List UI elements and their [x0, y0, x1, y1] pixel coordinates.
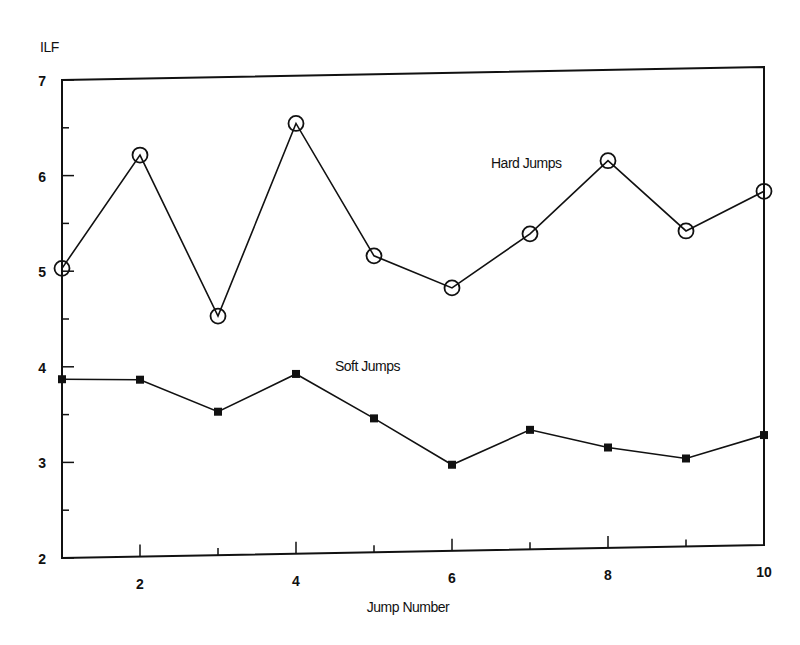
series-line	[62, 123, 764, 316]
filled-square-marker	[448, 461, 456, 469]
x-tick-label: 6	[448, 570, 456, 586]
x-tick-label: 2	[136, 576, 144, 592]
series-soft-jumps	[58, 370, 768, 469]
filled-square-marker	[526, 426, 534, 434]
data-series	[55, 116, 772, 469]
y-tick-label: 4	[38, 360, 46, 376]
y-tick-label: 6	[38, 169, 46, 185]
open-circle-marker	[523, 226, 538, 241]
filled-square-marker	[604, 444, 612, 452]
filled-square-marker	[760, 431, 768, 439]
x-tick-label: 4	[292, 573, 300, 589]
x-axis-title: Jump Number	[367, 599, 450, 615]
open-circle-marker	[55, 261, 70, 276]
open-circle-marker	[601, 153, 616, 168]
open-circle-marker	[367, 248, 382, 263]
filled-square-marker	[292, 370, 300, 378]
open-circle-marker	[133, 148, 148, 163]
y-tick-label: 2	[38, 551, 46, 567]
axis-ticks	[62, 80, 686, 558]
y-axis-title: ILF	[40, 39, 59, 55]
filled-square-marker	[136, 376, 144, 384]
open-circle-marker	[679, 223, 694, 238]
open-circle-marker	[445, 280, 460, 295]
x-tick-label: 10	[756, 564, 772, 580]
plot-border	[62, 67, 764, 558]
open-circle-marker	[757, 184, 772, 199]
series-annotation: Soft Jumps	[335, 358, 401, 374]
axis-labels: 234567246810ILFJump NumberHard JumpsSoft…	[38, 39, 772, 615]
series-hard-jumps	[55, 116, 772, 324]
y-tick-label: 7	[38, 73, 46, 89]
filled-square-marker	[214, 408, 222, 416]
filled-square-marker	[682, 454, 690, 462]
open-circle-marker	[211, 309, 226, 324]
open-circle-marker	[289, 116, 304, 131]
filled-square-marker	[58, 375, 66, 383]
x-tick-label: 8	[604, 567, 612, 583]
y-tick-label: 3	[38, 455, 46, 471]
series-annotation: Hard Jumps	[491, 155, 562, 171]
y-tick-label: 5	[38, 264, 46, 280]
line-chart: 234567246810ILFJump NumberHard JumpsSoft…	[0, 0, 800, 645]
filled-square-marker	[370, 414, 378, 422]
plot-frame	[62, 67, 764, 558]
series-line	[62, 374, 764, 465]
